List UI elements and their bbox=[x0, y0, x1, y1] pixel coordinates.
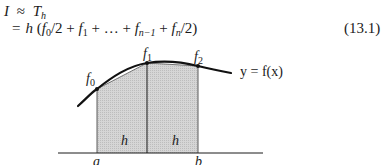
label-curve: y = f(x) bbox=[240, 65, 283, 79]
label-b: b bbox=[195, 155, 202, 165]
label-h-left: h bbox=[121, 134, 128, 148]
label-f1: f1 bbox=[143, 47, 152, 61]
label-f2-sub: 2 bbox=[198, 55, 203, 66]
label-h-right: h bbox=[172, 134, 179, 148]
label-f0-sub: 0 bbox=[90, 77, 95, 88]
trapezoid-rule-figure bbox=[0, 0, 392, 165]
label-f2: f2 bbox=[194, 50, 203, 64]
label-f0: f0 bbox=[86, 72, 95, 86]
label-a: a bbox=[93, 155, 100, 165]
point-f0 bbox=[95, 87, 99, 91]
label-f1-sub: 1 bbox=[147, 52, 152, 63]
